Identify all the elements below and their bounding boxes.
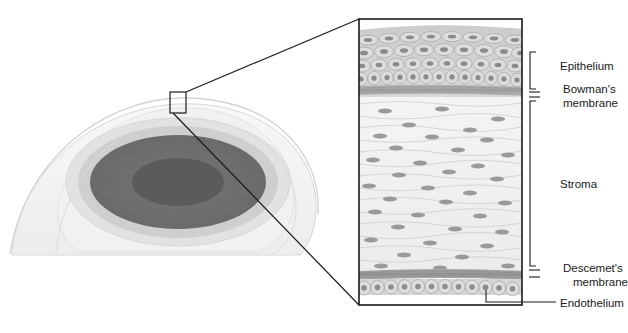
label-bowmans-membrane: Bowman's membrane: [563, 83, 618, 110]
label-stroma: Stroma: [560, 178, 597, 192]
pupil: [132, 158, 224, 206]
epithelium-bracket: [530, 52, 536, 89]
label-descemets-line2: membrane: [563, 276, 628, 290]
eye-illustration: [10, 92, 318, 255]
label-endothelium-text: Endothelium: [560, 297, 624, 311]
stroma-bracket: [530, 101, 536, 266]
label-endothelium: Endothelium: [560, 297, 624, 311]
endothelium-layer: [357, 279, 522, 296]
label-descemets-line1: Descemet's: [563, 262, 628, 276]
label-stroma-text: Stroma: [560, 178, 597, 192]
label-bowmans-line1: Bowman's: [563, 83, 618, 97]
label-bowmans-line2: membrane: [563, 97, 618, 111]
label-epithelium-text: Epithelium: [560, 60, 614, 74]
leader-line-top: [186, 19, 359, 92]
label-descemets-membrane: Descemet's membrane: [563, 262, 628, 289]
label-epithelium: Epithelium: [560, 60, 614, 74]
cornea-cross-section: [354, 19, 531, 305]
